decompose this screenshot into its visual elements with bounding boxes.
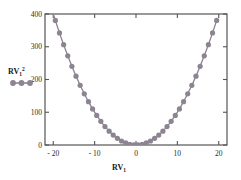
data-point — [214, 18, 219, 23]
x-tick-label: - 20 — [47, 149, 59, 158]
data-point — [156, 132, 161, 137]
scatter-plot: - 20- 1001020 0100200300400 — [0, 0, 241, 180]
x-tick-label: 0 — [134, 149, 138, 158]
data-point — [82, 91, 87, 96]
legend-marker-sample — [9, 78, 37, 88]
data-point — [185, 91, 190, 96]
data-point — [177, 106, 182, 111]
data-point — [69, 64, 74, 69]
data-point — [102, 124, 107, 129]
plot-frame — [45, 14, 227, 145]
data-point — [206, 42, 211, 47]
y-tick-label: 400 — [31, 10, 43, 19]
data-point — [193, 74, 198, 79]
data-point — [78, 83, 83, 88]
data-point — [49, 5, 54, 10]
x-tick-label: 10 — [174, 149, 182, 158]
data-point — [73, 74, 78, 79]
data-point — [98, 119, 103, 124]
data-point — [53, 18, 58, 23]
data-point — [189, 83, 194, 88]
data-series — [49, 5, 220, 148]
y-tick-label: 100 — [31, 108, 43, 117]
data-point — [94, 113, 99, 118]
y-axis-ticks — [45, 14, 227, 145]
data-point — [57, 30, 62, 35]
y-tick-label: 300 — [31, 42, 43, 51]
data-point — [164, 124, 169, 129]
data-point — [198, 64, 203, 69]
x-axis-title-main: RV — [112, 163, 123, 172]
data-point — [160, 129, 165, 134]
x-tick-label: 20 — [215, 149, 223, 158]
data-point — [65, 53, 70, 58]
y-tick-label: 0 — [38, 141, 42, 150]
legend-label-main: RV — [8, 67, 19, 76]
x-axis-title-subscript: 1 — [123, 167, 126, 173]
data-point — [181, 99, 186, 104]
data-point — [61, 42, 66, 47]
data-point — [173, 113, 178, 118]
x-axis-title: RV1 — [112, 163, 126, 173]
data-point — [90, 106, 95, 111]
data-point — [86, 99, 91, 104]
data-point — [169, 119, 174, 124]
chart-figure: - 20- 1001020 0100200300400 RV12 RV1 — [0, 0, 241, 180]
data-point — [107, 129, 112, 134]
legend-label-superscript: 2 — [22, 66, 25, 72]
data-point — [111, 132, 116, 137]
legend-label: RV12 — [8, 66, 25, 77]
data-point — [202, 53, 207, 58]
data-point — [152, 136, 157, 141]
x-axis-tick-labels: - 20- 1001020 — [47, 149, 222, 158]
x-tick-label: - 10 — [89, 149, 101, 158]
data-point — [210, 30, 215, 35]
